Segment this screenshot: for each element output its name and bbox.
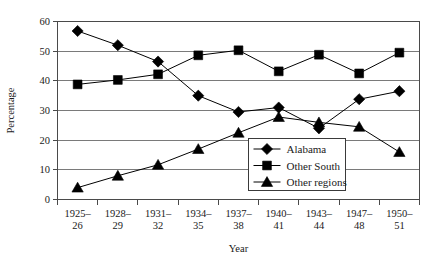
data-point-marker-diamond xyxy=(354,94,365,105)
legend-item: Other South xyxy=(254,160,341,172)
data-point-marker-square xyxy=(234,46,243,55)
data-point-marker-square xyxy=(395,48,404,57)
x-tick-label-bottom: 44 xyxy=(314,220,325,231)
data-point-marker-triangle xyxy=(394,147,405,157)
x-tick-label-bottom: 48 xyxy=(354,220,365,231)
x-tick-label-top: 1937– xyxy=(225,208,252,219)
x-tick-label-bottom: 32 xyxy=(153,220,164,231)
line-chart: 01020304050601925–261928–291931–321934–3… xyxy=(0,0,439,260)
data-point-marker-triangle xyxy=(112,170,123,180)
y-tick-label: 30 xyxy=(40,105,51,116)
y-tick-label: 20 xyxy=(40,135,51,146)
y-axis-ticks: 0102030405060 xyxy=(40,16,58,205)
data-point-marker-square xyxy=(315,50,324,59)
y-tick-label: 40 xyxy=(40,75,51,86)
data-point-marker-diamond xyxy=(72,25,83,36)
x-tick-label-top: 1928– xyxy=(105,208,132,219)
data-point-marker-triangle xyxy=(152,159,163,169)
data-point-marker-square xyxy=(73,80,82,89)
series-markers-other-south xyxy=(73,46,404,89)
y-axis-title: Percentage xyxy=(5,87,16,133)
data-point-marker-square xyxy=(194,51,203,60)
x-tick-label-top: 1940– xyxy=(266,208,293,219)
x-tick-label-bottom: 51 xyxy=(394,220,405,231)
legend: AlabamaOther SouthOther regions xyxy=(249,139,347,191)
y-tick-label: 0 xyxy=(45,194,50,205)
series-line-other-south xyxy=(78,50,400,84)
gridlines-group xyxy=(58,22,420,170)
x-tick-label-top: 1934– xyxy=(185,208,212,219)
legend-label: Other South xyxy=(287,160,341,172)
y-tick-label: 60 xyxy=(40,16,51,27)
x-tick-label-bottom: 35 xyxy=(193,220,204,231)
data-point-marker-triangle xyxy=(233,127,244,137)
legend-marker-square xyxy=(263,161,272,170)
legend-item: Other regions xyxy=(254,176,347,188)
data-point-marker-diamond xyxy=(112,40,123,51)
x-axis-title: Year xyxy=(229,243,249,254)
y-tick-label: 10 xyxy=(40,164,51,175)
x-tick-label-top: 1925– xyxy=(64,208,91,219)
data-point-marker-square xyxy=(274,67,283,76)
x-axis-labels: 1925–261928–291931–321934–351937–381940–… xyxy=(64,208,413,231)
x-tick-label-top: 1943– xyxy=(306,208,333,219)
legend-label: Other regions xyxy=(287,176,347,188)
data-point-marker-diamond xyxy=(233,106,244,117)
x-tick-label-bottom: 38 xyxy=(233,220,244,231)
data-point-marker-square xyxy=(355,69,364,78)
x-tick-label-top: 1931– xyxy=(145,208,172,219)
series-markers-other-regions xyxy=(72,112,405,192)
data-point-marker-diamond xyxy=(394,86,405,97)
data-point-marker-triangle xyxy=(193,144,204,154)
data-point-marker-triangle xyxy=(72,182,83,192)
x-tick-label-bottom: 29 xyxy=(113,220,124,231)
x-tick-label-top: 1950– xyxy=(386,208,413,219)
x-axis-ticks xyxy=(58,200,420,205)
series-markers-group xyxy=(72,25,405,192)
x-tick-label-bottom: 26 xyxy=(72,220,83,231)
data-point-marker-square xyxy=(113,76,122,85)
y-tick-label: 50 xyxy=(40,46,51,57)
legend-label: Alabama xyxy=(287,143,327,155)
chart-canvas: 01020304050601925–261928–291931–321934–3… xyxy=(0,0,439,260)
x-tick-label-bottom: 41 xyxy=(273,220,284,231)
data-point-marker-triangle xyxy=(273,112,284,122)
data-point-marker-square xyxy=(154,70,163,79)
x-tick-label-top: 1947– xyxy=(346,208,373,219)
